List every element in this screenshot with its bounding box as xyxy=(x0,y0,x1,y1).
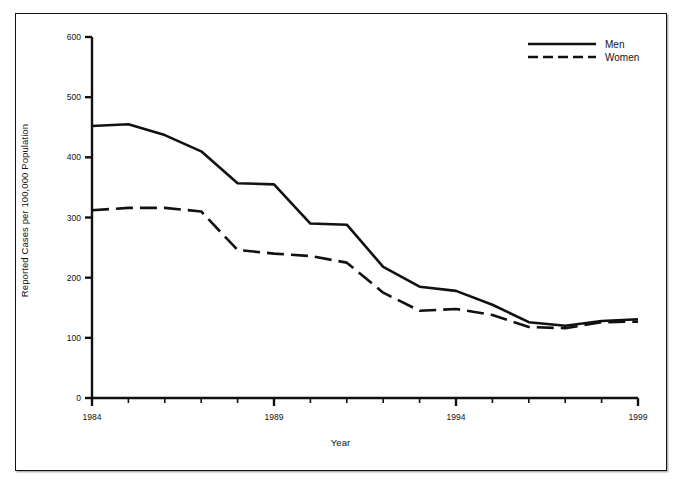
legend-label-men: Men xyxy=(605,39,624,50)
x-tick-label: 1984 xyxy=(83,412,102,422)
y-tick-label: 100 xyxy=(67,333,81,343)
series-line-women xyxy=(92,208,638,328)
y-tick-label: 600 xyxy=(67,32,81,42)
figure-root: 0100200300400500600 1984198919941999 Men… xyxy=(0,0,681,483)
chart-legend: MenWomen xyxy=(528,39,639,63)
line-chart-plot: 0100200300400500600 1984198919941999 Men… xyxy=(0,0,681,483)
series-line-men xyxy=(92,124,638,326)
data-series-group xyxy=(92,124,638,328)
y-tick-label: 500 xyxy=(67,92,81,102)
y-axis-title: Reported Cases per 100,000 Population xyxy=(19,121,30,301)
y-tick-label: 200 xyxy=(67,273,81,283)
x-axis: 1984198919941999 xyxy=(83,398,648,422)
x-tick-label: 1989 xyxy=(265,412,284,422)
x-tick-label: 1999 xyxy=(629,412,648,422)
y-tick-label: 400 xyxy=(67,152,81,162)
y-tick-label: 300 xyxy=(67,213,81,223)
x-tick-label: 1994 xyxy=(447,412,466,422)
y-axis: 0100200300400500600 xyxy=(67,32,92,403)
x-axis-title: Year xyxy=(0,437,681,448)
legend-label-women: Women xyxy=(605,52,639,63)
y-tick-label: 0 xyxy=(76,393,81,403)
